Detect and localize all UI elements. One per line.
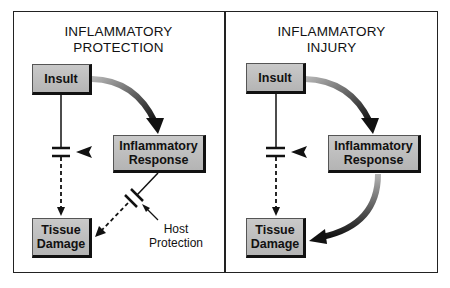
- right-insult-box: Insult: [246, 63, 306, 94]
- right-response-label-2: Response: [334, 153, 413, 167]
- right-damage-label-2: Damage: [251, 237, 300, 251]
- left-response-to-block-arrow: [76, 146, 113, 158]
- right-insult-to-response-arrow: [305, 79, 379, 134]
- left-panel-title: INFLAMMATORY PROTECTION: [13, 24, 224, 56]
- left-insult-box: Insult: [32, 64, 92, 95]
- right-tissue-damage-box: Tissue Damage: [246, 218, 306, 258]
- left-title-line-2: PROTECTION: [13, 40, 224, 56]
- right-insult-label: Insult: [258, 71, 291, 85]
- right-response-to-damage-arrow: [309, 174, 378, 244]
- right-title-line-1: INFLAMMATORY: [225, 24, 438, 40]
- right-title-line-2: INJURY: [225, 40, 438, 56]
- left-response-label-2: Response: [119, 153, 198, 167]
- left-damage-label-2: Damage: [37, 237, 86, 251]
- right-response-label-1: Inflammatory: [334, 139, 413, 153]
- left-diagonal-arrowhead: [95, 226, 106, 237]
- right-dashed-arrowhead: [272, 207, 280, 216]
- host-protection-annotation: Host Protection: [145, 222, 207, 250]
- right-inflammatory-response-box: Inflammatory Response: [328, 135, 421, 173]
- left-inflammatory-response-box: Inflammatory Response: [113, 135, 206, 173]
- left-diagonal-dashed-line: [102, 203, 128, 230]
- host-protection-pointer: [142, 204, 158, 220]
- left-damage-label-1: Tissue: [37, 223, 86, 237]
- left-response-label-1: Inflammatory: [119, 139, 198, 153]
- right-panel-title: INFLAMMATORY INJURY: [225, 24, 438, 56]
- left-tissue-damage-box: Tissue Damage: [32, 218, 92, 258]
- host-protection-line-1: Host: [145, 222, 207, 236]
- left-insult-to-response-arrow: [92, 79, 164, 134]
- right-damage-label-1: Tissue: [251, 223, 300, 237]
- left-title-line-1: INFLAMMATORY: [13, 24, 224, 40]
- left-insult-label: Insult: [44, 72, 77, 86]
- host-protection-line-2: Protection: [145, 236, 207, 250]
- left-response-diagonal-line: [137, 173, 158, 195]
- right-response-to-block-arrow: [291, 146, 328, 158]
- left-dashed-arrowhead: [57, 207, 65, 216]
